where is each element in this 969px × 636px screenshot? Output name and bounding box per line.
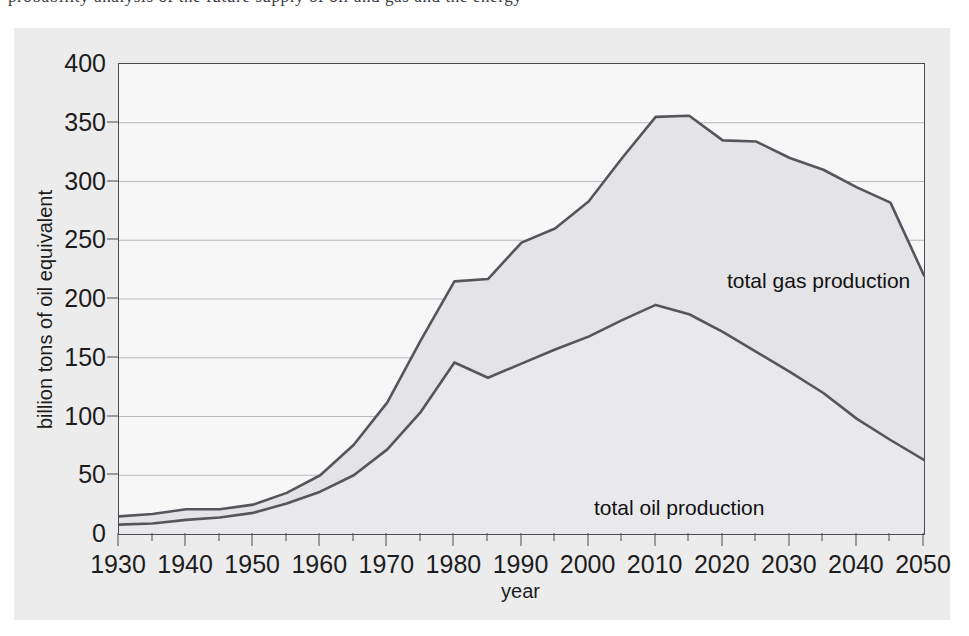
x-tick-mark-minor <box>285 533 286 541</box>
y-tick-mark <box>107 298 118 299</box>
x-tick-label: 2030 <box>761 550 817 579</box>
y-axis-title: billion tons of oil equivalent <box>34 75 57 545</box>
x-tick-label: 2040 <box>828 550 884 579</box>
y-tick-mark <box>107 121 118 122</box>
x-tick-label: 1950 <box>224 550 280 579</box>
x-tick-mark-minor <box>486 533 487 541</box>
x-tick-mark-major <box>118 533 119 546</box>
x-tick-mark-major <box>654 533 655 546</box>
chart-canvas <box>119 64 924 534</box>
y-tick-label: 200 <box>64 284 106 313</box>
y-tick-label: 300 <box>64 166 106 195</box>
x-tick-mark-minor <box>621 533 622 541</box>
x-tick-mark-minor <box>218 533 219 541</box>
x-tick-mark-minor <box>352 533 353 541</box>
y-tick-label: 250 <box>64 225 106 254</box>
x-tick-mark-minor <box>554 533 555 541</box>
x-tick-mark-minor <box>755 533 756 541</box>
x-tick-mark-minor <box>151 533 152 541</box>
x-axis-title: year <box>118 580 923 603</box>
x-tick-mark-major <box>788 533 789 546</box>
x-tick-mark-major <box>185 533 186 546</box>
x-tick-mark-major <box>386 533 387 546</box>
x-tick-mark-major <box>855 533 856 546</box>
y-tick-label: 0 <box>92 519 106 548</box>
y-tick-mark <box>107 356 118 357</box>
x-tick-label: 2000 <box>560 550 616 579</box>
gas-series-label: total gas production <box>727 269 910 293</box>
x-tick-mark-minor <box>419 533 420 541</box>
x-tick-mark-major <box>453 533 454 546</box>
y-axis-ticks: 050100150200250300350400 <box>14 28 114 620</box>
y-tick-label: 150 <box>64 342 106 371</box>
x-tick-label: 2050 <box>895 550 951 579</box>
y-tick-mark <box>107 180 118 181</box>
oil-series-label: total oil production <box>594 496 764 520</box>
y-tick-label: 350 <box>64 107 106 136</box>
x-tick-mark-minor <box>889 533 890 541</box>
cut-off-text-line: probability analysis of the future suppl… <box>8 0 522 7</box>
x-tick-mark-minor <box>822 533 823 541</box>
y-tick-label: 100 <box>64 401 106 430</box>
x-tick-mark-major <box>923 533 924 546</box>
x-tick-mark-major <box>587 533 588 546</box>
x-tick-label: 2010 <box>627 550 683 579</box>
x-tick-label: 1970 <box>359 550 415 579</box>
y-tick-mark <box>107 415 118 416</box>
x-tick-label: 1960 <box>291 550 347 579</box>
cut-off-text-above-figure: probability analysis of the future suppl… <box>0 0 969 14</box>
x-tick-mark-minor <box>688 533 689 541</box>
x-tick-label: 1930 <box>90 550 146 579</box>
figure-panel: 050100150200250300350400 billion tons of… <box>14 28 950 620</box>
x-tick-label: 1990 <box>493 550 549 579</box>
y-tick-mark <box>107 239 118 240</box>
y-tick-label: 50 <box>78 460 106 489</box>
x-tick-label: 1940 <box>157 550 213 579</box>
x-tick-mark-major <box>520 533 521 546</box>
x-tick-label: 1980 <box>426 550 482 579</box>
x-tick-mark-major <box>252 533 253 546</box>
plot-area: total gas production total oil productio… <box>118 63 925 535</box>
y-tick-mark <box>107 474 118 475</box>
x-tick-label: 2020 <box>694 550 750 579</box>
x-tick-mark-major <box>319 533 320 546</box>
x-tick-mark-major <box>721 533 722 546</box>
y-tick-label: 400 <box>64 49 106 78</box>
